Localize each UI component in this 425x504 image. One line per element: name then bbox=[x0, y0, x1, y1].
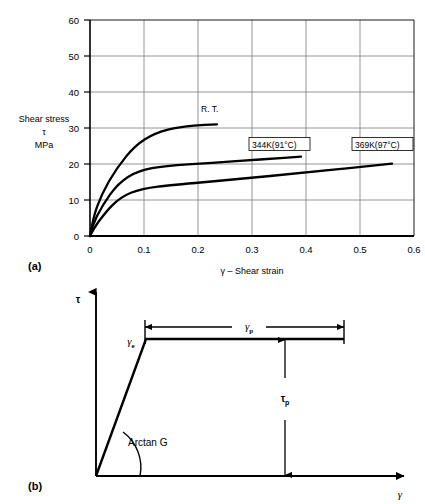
figure-caption-cropped bbox=[0, 493, 425, 504]
x-tick-label-0.5: 0.5 bbox=[353, 244, 366, 255]
tau-p-label: τp bbox=[281, 393, 290, 407]
y-tick-label-0: 0 bbox=[74, 231, 79, 242]
y-tick-label-10: 10 bbox=[68, 195, 79, 206]
y-tick-label-60: 60 bbox=[68, 15, 79, 26]
panel-a: 60 50 40 30 20 10 0 0 0.1 0.2 0.3 0.4 0.… bbox=[0, 0, 425, 280]
curve-label-344k-group: 344K(91°C) bbox=[249, 138, 310, 151]
y-tick-label-20: 20 bbox=[68, 159, 79, 170]
y-axis-label-line2: τ bbox=[42, 127, 46, 137]
y-axis-ticks bbox=[84, 20, 90, 236]
curve-label-369k: 369K(97°C) bbox=[355, 140, 400, 150]
arctan-g-label: Arctan G bbox=[128, 437, 168, 448]
panel-b-tag: (b) bbox=[28, 480, 42, 492]
y-axis-label-line1: Shear stress bbox=[19, 114, 70, 124]
curve-label-369k-group: 369K(97°C) bbox=[352, 138, 413, 151]
idealised-curve bbox=[96, 339, 344, 476]
idealised-shear-curve-diagram: τ γ γp γe τp Arctan G bbox=[0, 268, 425, 504]
gamma-p-label: γp bbox=[245, 320, 253, 335]
y-tick-label-40: 40 bbox=[68, 87, 79, 98]
tau-axis-label: τ bbox=[76, 294, 81, 305]
x-tick-label-0.1: 0.1 bbox=[137, 244, 150, 255]
x-tick-label-0.4: 0.4 bbox=[299, 244, 312, 255]
panel-b: τ γ γp γe τp Arctan G bbox=[0, 268, 425, 504]
y-tick-label-50: 50 bbox=[68, 51, 79, 62]
curve-label-344k: 344K(91°C) bbox=[252, 140, 297, 150]
gamma-e-label: γe bbox=[127, 335, 134, 350]
x-tick-label-0: 0 bbox=[87, 244, 92, 255]
x-tick-label-0.6: 0.6 bbox=[407, 244, 420, 255]
curve-label-rt: R. T. bbox=[201, 104, 218, 114]
figure-root: 60 50 40 30 20 10 0 0 0.1 0.2 0.3 0.4 0.… bbox=[0, 0, 425, 504]
x-tick-label-0.3: 0.3 bbox=[245, 244, 258, 255]
y-tick-label-30: 30 bbox=[68, 123, 79, 134]
shear-stress-strain-chart: 60 50 40 30 20 10 0 0 0.1 0.2 0.3 0.4 0.… bbox=[0, 0, 425, 280]
y-axis-label-line3: MPa bbox=[35, 140, 54, 150]
x-tick-label-0.2: 0.2 bbox=[191, 244, 204, 255]
curve-344k bbox=[90, 157, 301, 236]
